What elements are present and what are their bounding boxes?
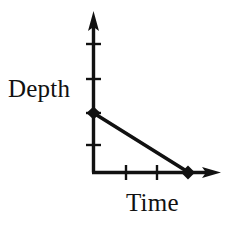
figure-root: Depth Time <box>0 0 236 230</box>
depth-time-chart <box>0 0 236 230</box>
y-axis-label: Depth <box>8 74 70 104</box>
chart-background <box>0 0 236 230</box>
x-axis-label: Time <box>126 188 179 218</box>
